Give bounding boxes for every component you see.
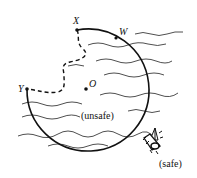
wave-line — [22, 115, 80, 119]
label-w: W — [119, 26, 129, 37]
wave-line — [128, 110, 160, 113]
label-o: O — [89, 78, 96, 89]
label-x: X — [72, 15, 80, 26]
wave-line — [48, 144, 108, 148]
dashed-boundary — [27, 30, 86, 93]
point-x — [75, 28, 79, 32]
point-w — [114, 36, 117, 39]
wave-line — [135, 32, 183, 36]
wave-line — [100, 93, 178, 97]
label-unsafe: (unsafe) — [81, 110, 114, 122]
point-o — [84, 87, 88, 91]
wave-line — [68, 65, 84, 67]
wave-line — [104, 73, 164, 77]
label-safe: (safe) — [159, 158, 182, 170]
label-y: Y — [18, 83, 25, 94]
boundary-arc — [27, 29, 149, 151]
diagram-canvas: X W Y O (unsafe) (safe) — [0, 0, 197, 178]
wave-line — [18, 131, 154, 138]
wave-line — [22, 102, 82, 106]
point-y — [25, 87, 29, 91]
wave-line — [96, 59, 172, 63]
